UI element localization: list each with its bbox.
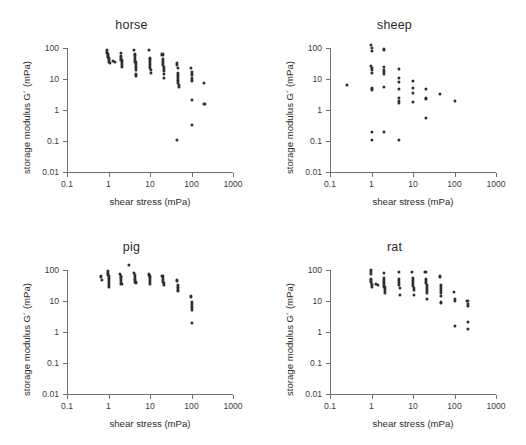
y-axis-line: [67, 270, 68, 394]
x-axis-tick-label: 1000: [486, 401, 505, 411]
data-point: [370, 71, 373, 74]
data-point: [425, 88, 428, 91]
data-point: [134, 282, 137, 285]
data-point: [191, 79, 194, 82]
data-point: [127, 263, 130, 266]
data-point: [370, 50, 373, 53]
panel-title: rat: [263, 240, 526, 254]
data-point: [177, 86, 180, 89]
panel-rat: rat 0.010.11101000.11101001000shear stre…: [263, 222, 526, 444]
y-axis-tick-label: 100: [286, 43, 322, 53]
y-axis-tick: [326, 332, 330, 333]
data-point: [397, 271, 400, 274]
data-point: [398, 139, 401, 142]
x-axis-tick: [233, 395, 234, 399]
panel-pig: pig 0.010.11101000.11101001000shear stre…: [0, 222, 263, 444]
data-point: [411, 91, 414, 94]
y-axis-tick: [63, 48, 67, 49]
panel-horse: horse 0.010.11101000.11101001000shear st…: [0, 0, 263, 222]
data-point: [424, 270, 427, 273]
x-axis-tick-label: 10: [145, 401, 155, 411]
y-axis-title: storage modulus G´ (mPa): [21, 61, 32, 174]
data-point: [466, 304, 469, 307]
data-point: [453, 324, 456, 327]
x-axis-title: shear stress (mPa): [372, 196, 453, 207]
data-point: [382, 48, 385, 51]
x-axis-tick: [330, 173, 331, 177]
data-point: [190, 321, 193, 324]
y-axis-line: [67, 48, 68, 172]
y-axis-tick: [63, 141, 67, 142]
y-axis-tick: [326, 363, 330, 364]
data-point: [382, 86, 385, 89]
x-axis-tick: [233, 173, 234, 177]
data-point: [190, 98, 193, 101]
x-axis-title: shear stress (mPa): [109, 196, 190, 207]
y-axis-tick: [326, 79, 330, 80]
data-point: [370, 272, 373, 275]
data-point: [412, 289, 415, 292]
x-axis-tick: [150, 173, 151, 177]
y-axis-tick: [63, 363, 67, 364]
data-point: [383, 292, 386, 295]
y-axis-tick-label: 100: [23, 265, 59, 275]
x-axis-tick-label: 1: [369, 401, 374, 411]
x-axis-tick: [455, 173, 456, 177]
data-point: [398, 293, 401, 296]
x-axis-tick: [496, 173, 497, 177]
x-axis-tick-label: 1: [106, 179, 111, 189]
data-point: [114, 60, 117, 63]
data-point: [149, 71, 152, 74]
x-axis-tick-label: 100: [184, 179, 198, 189]
x-axis-tick-label: 0.1: [61, 401, 73, 411]
data-point: [398, 286, 401, 289]
y-axis-title: storage modulus G´ (mPa): [21, 283, 32, 396]
x-axis-tick-label: 0.1: [61, 179, 73, 189]
data-point: [203, 102, 206, 105]
data-point: [397, 80, 400, 83]
data-point: [190, 295, 193, 298]
data-point: [466, 320, 469, 323]
data-point: [382, 72, 385, 75]
x-axis-tick: [67, 173, 68, 177]
data-point: [382, 130, 385, 133]
x-axis-title: shear stress (mPa): [372, 418, 453, 429]
data-point: [411, 80, 414, 83]
x-axis-tick: [413, 173, 414, 177]
y-axis-tick: [63, 110, 67, 111]
data-point: [426, 292, 429, 295]
panel-title: pig: [0, 240, 263, 254]
data-point: [412, 293, 415, 296]
data-point: [397, 67, 400, 70]
data-point: [190, 309, 193, 312]
x-axis-tick-label: 10: [145, 179, 155, 189]
x-axis-title: shear stress (mPa): [109, 418, 190, 429]
data-point: [149, 282, 152, 285]
x-axis-tick: [150, 395, 151, 399]
data-point: [411, 271, 414, 274]
data-point: [425, 98, 428, 101]
x-axis-tick: [372, 173, 373, 177]
x-axis-tick: [109, 173, 110, 177]
data-point: [108, 285, 111, 288]
data-point: [440, 294, 443, 297]
y-axis-tick: [326, 141, 330, 142]
data-point: [161, 53, 164, 56]
data-point: [466, 327, 469, 330]
panel-sheep: sheep 0.010.11101000.11101001000shear st…: [263, 0, 526, 222]
data-point: [439, 93, 442, 96]
data-point: [370, 139, 373, 142]
y-axis-tick: [63, 301, 67, 302]
figure-grid: horse 0.010.11101000.11101001000shear st…: [0, 0, 526, 445]
y-axis-tick: [63, 79, 67, 80]
data-point: [133, 48, 136, 51]
x-axis-tick-label: 100: [447, 401, 461, 411]
y-axis-title: storage modulus G´ (mPa): [284, 283, 295, 396]
panel-title: horse: [0, 18, 263, 32]
x-axis-tick: [455, 395, 456, 399]
data-point: [425, 117, 428, 120]
data-point: [177, 289, 180, 292]
x-axis-tick-label: 0.1: [324, 179, 336, 189]
y-axis-tick-label: 100: [23, 43, 59, 53]
data-point: [190, 123, 193, 126]
